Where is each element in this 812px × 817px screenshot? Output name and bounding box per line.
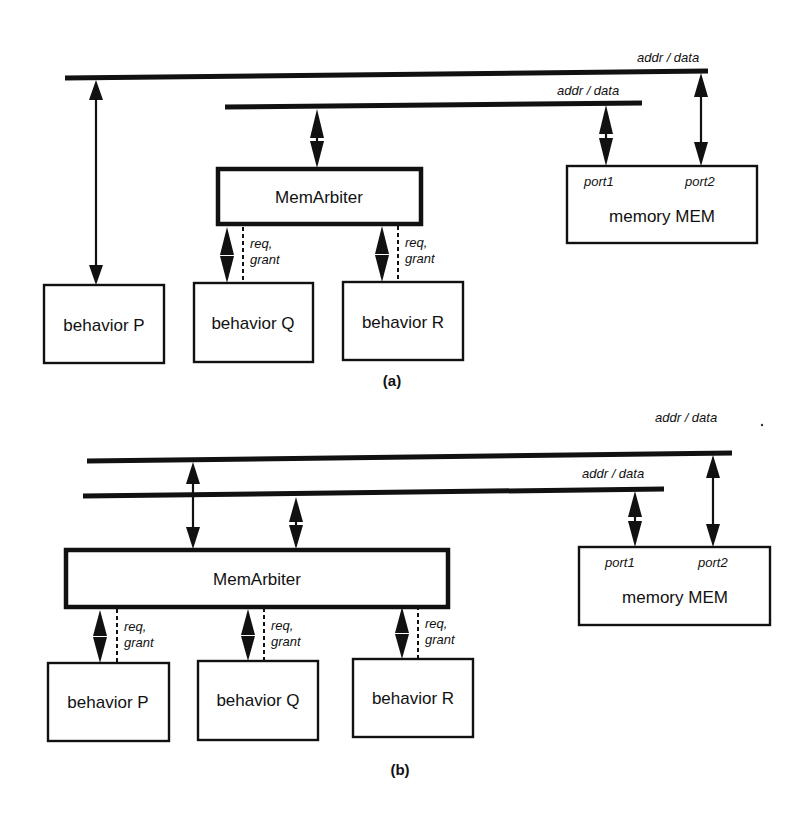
diagram-canvas: addr / data addr / data [0, 0, 812, 817]
double-arrow-b-arbiter-top [186, 462, 200, 549]
behavior-r-a: behavior R [343, 282, 463, 360]
behavior-p-a-label: behavior P [63, 316, 144, 335]
port1-label-a: port1 [583, 174, 614, 189]
bus-b-second [83, 489, 664, 496]
double-arrow-a-arbiter [310, 109, 324, 168]
double-arrow-a-p [89, 80, 103, 285]
double-arrow-a-q [220, 227, 234, 283]
diagram-a: addr / data addr / data [44, 50, 757, 389]
behavior-r-b: behavior R [353, 659, 473, 737]
port1-label-b: port1 [604, 555, 635, 570]
double-arrow-b-arbiter-second [289, 497, 303, 549]
double-arrow-b-p [93, 610, 107, 663]
bus-b-top [87, 453, 732, 461]
bus-label-a-top: addr / data [637, 50, 699, 65]
bus-label-a-second: addr / data [557, 83, 619, 98]
mem-arbiter-b: MemArbiter [66, 550, 448, 607]
mem-arbiter-a: MemArbiter [218, 169, 421, 224]
handshake-label-b-q-req: req, [271, 618, 293, 633]
double-arrow-b-port2 [706, 455, 720, 547]
bus-a-second [225, 103, 642, 107]
memory-mem-b-label: memory MEM [622, 588, 728, 607]
bus-label-b-top: addr / data [655, 410, 717, 425]
double-arrow-b-q [241, 609, 255, 661]
double-arrow-b-port1 [628, 491, 642, 547]
mem-arbiter-a-label: MemArbiter [275, 188, 363, 207]
bus-label-b-second: addr / data [582, 466, 644, 481]
handshake-label-a-q-req: req, [250, 236, 272, 251]
behavior-p-b-label: behavior P [67, 693, 148, 712]
behavior-q-b: behavior Q [198, 661, 318, 740]
behavior-r-b-label: behavior R [372, 689, 454, 708]
caption-a: (a) [383, 372, 401, 389]
memory-mem-a-label: memory MEM [609, 207, 715, 226]
handshake-label-b-q-grant: grant [271, 634, 302, 649]
behavior-r-a-label: behavior R [362, 313, 444, 332]
behavior-q-a: behavior Q [194, 283, 313, 362]
handshake-label-a-r-grant: grant [405, 251, 436, 266]
handshake-label-b-p-grant: grant [124, 635, 155, 650]
double-arrow-a-port1 [599, 105, 613, 166]
port2-label-b: port2 [697, 555, 728, 570]
caption-b: (b) [390, 761, 409, 778]
handshake-label-b-r-req: req, [425, 616, 447, 631]
handshake-label-a-q-grant: grant [250, 252, 281, 267]
scan-speck [761, 424, 763, 426]
port2-label-a: port2 [684, 174, 715, 189]
double-arrow-a-port2 [694, 73, 708, 166]
handshake-label-b-r-grant: grant [425, 632, 456, 647]
double-arrow-b-r [395, 607, 409, 659]
handshake-label-a-r-req: req, [405, 235, 427, 250]
diagram-b: addr / data addr / data [48, 410, 770, 778]
memory-mem-a: port1 port2 memory MEM [567, 166, 757, 243]
behavior-q-a-label: behavior Q [211, 314, 294, 333]
bus-a-top [65, 71, 708, 78]
behavior-p-a: behavior P [44, 285, 164, 363]
behavior-p-b: behavior P [48, 663, 169, 741]
handshake-label-b-p-req: req, [124, 619, 146, 634]
behavior-q-b-label: behavior Q [216, 691, 299, 710]
mem-arbiter-b-label: MemArbiter [213, 570, 301, 589]
memory-mem-b: port1 port2 memory MEM [579, 547, 770, 625]
double-arrow-a-r [375, 226, 389, 282]
